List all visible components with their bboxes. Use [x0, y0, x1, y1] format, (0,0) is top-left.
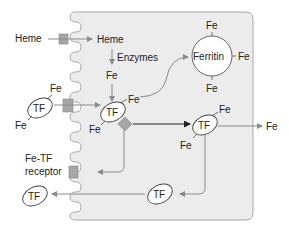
- ferritin-fe-bottom: Fe: [206, 83, 218, 94]
- tf-recycled-inner-label: TF: [153, 189, 165, 200]
- ferritin-fe-right: Fe: [238, 51, 250, 62]
- tf-outside-label: TF: [33, 103, 45, 114]
- enzymes-label: Enzymes: [117, 52, 158, 63]
- tf-exit-fe-top: Fe: [219, 104, 231, 115]
- tf-outside-fe-bottom: Fe: [15, 120, 27, 131]
- receptor-label-line2: receptor: [25, 166, 62, 177]
- heme-outside-label: Heme: [15, 33, 42, 44]
- receptor-label-line1: Fe-TF: [25, 153, 52, 164]
- tf-exit-fe-bottom: Fe: [180, 140, 192, 151]
- fe-from-heme-label: Fe: [106, 70, 118, 81]
- ferritin-label: Ferritin: [193, 51, 224, 62]
- tf-inner-fe-top: Fe: [128, 94, 140, 105]
- fe-out-label: Fe: [266, 121, 278, 132]
- tf-exit-label: TF: [198, 120, 210, 131]
- ferritin-fe-top: Fe: [206, 20, 218, 31]
- tf-inner-fe-bottom: Fe: [89, 124, 101, 135]
- iron-absorption-diagram: Heme Heme Enzymes Fe Ferritin Fe Fe Fe T…: [0, 0, 289, 227]
- heme-inside-label: Heme: [97, 34, 124, 45]
- tf-inner-label: TF: [106, 107, 118, 118]
- tf-recycled-outer-label: TF: [28, 191, 40, 202]
- tf-outside-fe-top: Fe: [50, 83, 62, 94]
- fe-tf-receptor: [69, 166, 78, 178]
